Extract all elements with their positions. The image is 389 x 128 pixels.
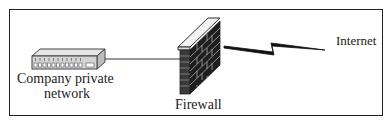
lightning-link-icon xyxy=(224,43,325,55)
hub-label-line2: network xyxy=(17,86,114,101)
brick-firewall-icon xyxy=(178,18,220,94)
network-hub-icon xyxy=(32,49,105,69)
hub-label-line1: Company private xyxy=(17,71,114,86)
internet-label: Internet xyxy=(336,33,376,48)
firewall-label: Firewall xyxy=(175,97,222,112)
hub-label: Company private network xyxy=(17,71,114,101)
